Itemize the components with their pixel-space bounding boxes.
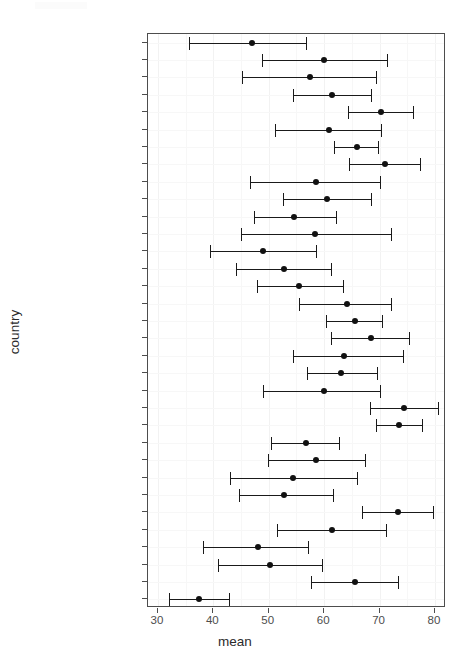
y-axis-tick	[142, 42, 147, 43]
x-axis-tick-label: 80	[428, 614, 441, 626]
chart-root: country Yemen, Rep.West Bank and GazaVie…	[0, 0, 470, 664]
y-axis-tick	[142, 59, 147, 60]
y-axis-tick	[142, 546, 147, 547]
y-axis-tick	[142, 337, 147, 338]
y-axis-tick	[142, 442, 147, 443]
y-axis-tick	[142, 564, 147, 565]
y-axis-tick	[142, 494, 147, 495]
y-axis-tick	[142, 581, 147, 582]
y-axis-labels: Yemen, Rep.West Bank and GazaVietnamThai…	[0, 33, 470, 607]
y-axis-tick	[142, 424, 147, 425]
y-axis-tick	[142, 181, 147, 182]
y-axis-tick	[142, 216, 147, 217]
y-axis-tick	[142, 529, 147, 530]
x-axis-tick	[434, 608, 435, 613]
x-axis-tick	[157, 608, 158, 613]
y-axis-tick	[142, 459, 147, 460]
y-axis-tick	[142, 146, 147, 147]
x-axis-tick	[212, 608, 213, 613]
y-axis-tick	[142, 372, 147, 373]
y-axis-tick	[142, 303, 147, 304]
y-axis-tick	[142, 320, 147, 321]
y-axis-tick	[142, 163, 147, 164]
x-axis-tick-label: 60	[317, 614, 330, 626]
y-axis-tick	[142, 355, 147, 356]
x-axis-tick-label: 40	[206, 614, 219, 626]
y-axis-tick	[142, 390, 147, 391]
y-axis-tick	[142, 129, 147, 130]
y-axis-tick	[142, 598, 147, 599]
y-axis-tick	[142, 477, 147, 478]
x-axis-tick	[323, 608, 324, 613]
y-axis-tick	[142, 198, 147, 199]
x-axis-tick	[268, 608, 269, 613]
x-axis-tick-label: 50	[261, 614, 274, 626]
y-axis-tick	[142, 511, 147, 512]
x-axis-tick-label: 70	[372, 614, 385, 626]
x-axis-tick-label: 30	[151, 614, 164, 626]
y-axis-tick	[142, 285, 147, 286]
page-artifact	[35, 2, 87, 9]
y-axis-tick	[142, 111, 147, 112]
y-axis-tick	[142, 94, 147, 95]
x-axis-tick	[379, 608, 380, 613]
y-axis-tick	[142, 407, 147, 408]
y-axis-tick	[142, 250, 147, 251]
y-axis-tick	[142, 233, 147, 234]
y-axis-tick	[142, 76, 147, 77]
y-axis-tick	[142, 268, 147, 269]
x-axis-title: mean	[0, 634, 470, 649]
